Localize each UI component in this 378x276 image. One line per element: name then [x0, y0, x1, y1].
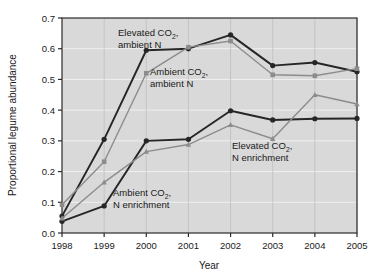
- x-axis-title: Year: [199, 260, 220, 271]
- annotation-ambient-co2-n-enrichment: Ambient CO2,N enrichment: [113, 187, 171, 210]
- legume-abundance-line-chart: 0.00.10.20.30.40.50.60.7 199819992000200…: [0, 0, 378, 276]
- annotation-line-2: N enrichment: [113, 199, 170, 210]
- data-point: [228, 108, 233, 113]
- data-point: [270, 117, 275, 122]
- annotation-line-2: ambient N: [150, 78, 193, 89]
- data-point: [186, 45, 191, 50]
- y-tick-label: 0.7: [42, 13, 55, 24]
- data-point: [312, 116, 317, 121]
- y-axis-title: Proportional legume abundance: [7, 54, 18, 196]
- x-tick-label: 2002: [220, 240, 241, 251]
- data-point: [355, 66, 360, 71]
- data-point: [60, 202, 65, 207]
- data-point: [270, 73, 275, 78]
- data-point: [102, 203, 107, 208]
- annotation-line-2: N enrichment: [232, 152, 289, 163]
- data-point: [313, 73, 318, 78]
- y-tick-label: 0.4: [42, 105, 55, 116]
- x-tick-label: 2000: [136, 240, 157, 251]
- y-tick-label: 0.6: [42, 43, 55, 54]
- y-tick-label: 0.0: [42, 228, 55, 239]
- y-tick-label: 0.1: [42, 197, 55, 208]
- data-point: [270, 63, 275, 68]
- chart-figure: 0.00.10.20.30.40.50.60.7 199819992000200…: [0, 0, 378, 276]
- annotation-elevated-co2-n-enrichment: Elevated CO2,N enrichment: [232, 140, 292, 163]
- x-tick-label: 2001: [178, 240, 199, 251]
- y-tick-label: 0.2: [42, 166, 55, 177]
- x-tick-label: 2004: [304, 240, 325, 251]
- y-tick-label: 0.3: [42, 135, 55, 146]
- x-tick-label: 2005: [346, 240, 367, 251]
- y-tick-label: 0.5: [42, 74, 55, 85]
- data-point: [144, 138, 149, 143]
- x-tick-label: 1999: [94, 240, 115, 251]
- data-point: [312, 60, 317, 65]
- data-point: [186, 137, 191, 142]
- x-tick-label: 2003: [262, 240, 283, 251]
- x-tick-label: 1998: [51, 240, 72, 251]
- data-point: [144, 71, 149, 76]
- data-point: [102, 159, 107, 164]
- data-point: [102, 137, 107, 142]
- data-point: [228, 39, 233, 44]
- data-point: [354, 116, 359, 121]
- annotation-line-2: ambient N: [118, 39, 161, 50]
- data-point: [228, 32, 233, 37]
